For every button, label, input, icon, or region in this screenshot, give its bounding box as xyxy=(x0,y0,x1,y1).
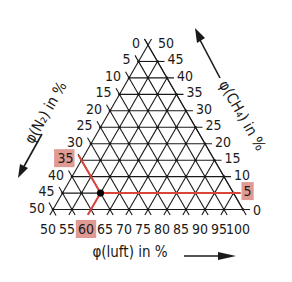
right-tick-label: 0 xyxy=(253,202,261,218)
left-tick-label: 50 xyxy=(29,200,45,216)
bottom-tick-label: 100 xyxy=(226,221,250,237)
right-tick-label: 15 xyxy=(225,150,241,166)
left-tick-label: 40 xyxy=(48,167,64,183)
grid-line-luft xyxy=(183,160,215,215)
bottom-tick-label: 50 xyxy=(40,221,56,237)
highlighted-point xyxy=(97,189,104,196)
luft-reading-line xyxy=(88,193,101,214)
left-tick-label: 30 xyxy=(67,134,83,150)
n2-reading-line xyxy=(79,155,101,193)
bottom-tick-label: 95 xyxy=(211,221,227,237)
bottom-tick-label: 80 xyxy=(154,221,170,237)
bottom-tick-label: 75 xyxy=(135,221,151,237)
bottom-axis-title: φ(luft) in % xyxy=(92,243,167,261)
grid-line-luft xyxy=(107,94,177,215)
left-tick-label: 45 xyxy=(38,183,54,199)
grid-line-luft xyxy=(221,193,234,215)
bottom-axis-arrow-icon xyxy=(184,252,236,260)
left-tick-label: 25 xyxy=(76,117,92,133)
grid-line-luft xyxy=(145,127,196,215)
grid-line-n2 xyxy=(59,187,75,215)
right-tick-label: 25 xyxy=(206,117,222,133)
right-tick-label: 5 xyxy=(244,183,252,199)
grid-line-luft xyxy=(164,144,205,215)
grid-line-n2 xyxy=(116,88,189,215)
bottom-tick-label: 70 xyxy=(116,221,132,237)
left-axis-title-group: φ(N₂) in % xyxy=(21,78,71,147)
right-tick-label: 45 xyxy=(168,51,184,67)
right-tick-label: 40 xyxy=(177,68,193,84)
bottom-tick-label: 65 xyxy=(97,221,113,237)
left-axis-title: φ(N₂) in % xyxy=(21,78,71,147)
bottom-tick-label: 60 xyxy=(78,221,94,237)
bottom-tick-label: 55 xyxy=(59,221,75,237)
left-tick-label: 10 xyxy=(105,68,121,84)
right-tick-label: 10 xyxy=(234,167,250,183)
bottom-tick-label: 85 xyxy=(173,221,189,237)
bottom-tick-label: 90 xyxy=(192,221,208,237)
left-tick-label: 35 xyxy=(57,150,73,166)
tick-labels: 0510152025303540455050454035302520151050… xyxy=(29,35,261,238)
right-tick-label: 35 xyxy=(187,84,203,100)
left-tick-label: 0 xyxy=(132,35,140,51)
left-tick-label: 20 xyxy=(86,101,102,117)
right-tick-label: 50 xyxy=(158,35,174,51)
right-axis-arrow-icon xyxy=(195,28,220,78)
right-tick-label: 30 xyxy=(196,101,212,117)
right-tick-label: 20 xyxy=(215,134,231,150)
left-tick-label: 15 xyxy=(95,84,111,100)
ternary-diagram: 0510152025303540455050454035302520151050… xyxy=(0,0,292,282)
left-tick-label: 5 xyxy=(122,51,130,67)
